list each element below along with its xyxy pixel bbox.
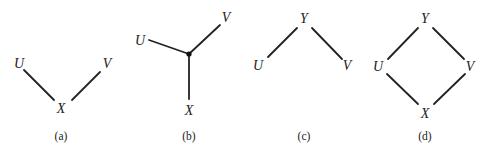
diagram-svg: U V X (a) U V X (b) Y U V (c) [0, 0, 485, 155]
node-y: Y [300, 11, 310, 26]
center-node-dot [186, 51, 191, 56]
node-x: X [184, 103, 194, 118]
node-v: V [222, 10, 232, 25]
edge-y-u [388, 28, 418, 59]
node-v: V [466, 59, 476, 74]
edge-u-x [387, 74, 418, 104]
caption-b: (b) [182, 130, 196, 143]
figure-c: Y U V (c) [253, 11, 353, 143]
figure-a: U V X (a) [14, 56, 113, 143]
edge-y-v [312, 28, 342, 59]
edge-v-x [72, 72, 100, 100]
node-u: U [14, 56, 25, 71]
node-v: V [103, 56, 113, 71]
node-u: U [253, 58, 264, 73]
figure-b: U V X (b) [135, 10, 232, 143]
edge-v-center [189, 25, 220, 54]
node-u: U [135, 33, 146, 48]
node-u: U [373, 59, 384, 74]
node-x: X [420, 106, 430, 121]
caption-a: (a) [55, 130, 68, 143]
edge-u-x [24, 70, 54, 100]
edge-y-v [433, 28, 464, 59]
edge-y-u [268, 28, 297, 57]
edge-v-x [434, 74, 465, 104]
diagram-canvas: U V X (a) U V X (b) Y U V (c) [0, 0, 485, 155]
caption-c: (c) [298, 130, 311, 143]
caption-d: (d) [418, 130, 432, 143]
node-x: X [56, 101, 66, 116]
edge-u-center [149, 40, 189, 54]
node-y: Y [421, 11, 431, 26]
figure-d: Y U V X (d) [373, 11, 476, 143]
node-v: V [343, 58, 353, 73]
